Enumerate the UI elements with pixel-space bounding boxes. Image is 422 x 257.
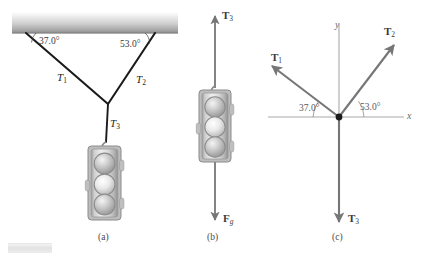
light-visor-left-b <box>196 123 200 134</box>
caption-panel-b: (b) <box>207 233 218 243</box>
panel-b-group <box>196 16 234 220</box>
panel-a-group <box>12 12 178 220</box>
caption-panel-c: (c) <box>332 233 343 243</box>
origin-knot-dot-c <box>336 114 343 121</box>
angle-label-left-c: 37.0° <box>299 104 319 114</box>
bottom-left-partial-bar <box>8 243 52 253</box>
ceiling-bar <box>12 12 178 33</box>
tension-label-t1-a: T1 <box>57 72 67 85</box>
vector-t2-subscript-c: 2 <box>391 30 395 39</box>
tension-t1-subscript: 1 <box>63 76 67 85</box>
vector-t3-subscript-b: 3 <box>229 14 233 23</box>
axis-label-y-c: y <box>335 20 339 30</box>
cable-t3 <box>106 104 108 142</box>
tension-label-t2-a: T2 <box>136 74 146 87</box>
vector-t3-subscript-c: 3 <box>355 217 359 226</box>
tension-label-t3-a: T3 <box>110 118 120 131</box>
vector-label-t2-c: T2 <box>384 26 395 39</box>
light-visor-right2-b <box>230 141 234 152</box>
axis-label-x-c: x <box>407 111 411 121</box>
lamp-yellow-b <box>205 117 225 137</box>
vector-label-fg-b: Fg <box>223 213 233 226</box>
lamp-red-a <box>94 153 115 174</box>
angle-label-left-a: 37.0° <box>39 37 59 47</box>
caption-panel-a: (a) <box>98 233 109 243</box>
light-visor-left-a <box>85 180 89 191</box>
angle-label-right-a: 53.0° <box>120 40 140 50</box>
lamp-red-b <box>205 97 225 117</box>
lamp-yellow-a <box>94 174 115 195</box>
traffic-light-a <box>85 142 124 220</box>
traffic-light-b <box>196 86 234 162</box>
vector-label-t1-c: T1 <box>271 52 282 65</box>
light-visor-right-a <box>120 160 124 171</box>
panel-c-group <box>268 24 404 222</box>
lamp-green-a <box>94 194 115 215</box>
vector-t1-subscript-c: 1 <box>278 56 282 65</box>
vector-label-t3-c: T3 <box>348 213 359 226</box>
vector-fg-symbol-b: F <box>223 212 230 224</box>
tension-t2-subscript: 2 <box>142 78 146 87</box>
vector-fg-subscript-b: g <box>230 217 234 226</box>
figure-canvas: 37.0° 53.0° T1 T2 T3 (a) T3 Fg (b) y x 3… <box>0 0 422 257</box>
tension-t3-subscript: 3 <box>116 122 120 131</box>
vector-label-t3-b: T3 <box>222 10 233 23</box>
light-visor-right2-a <box>120 198 124 209</box>
angle-label-right-c: 53.0° <box>360 103 380 113</box>
light-visor-right-b <box>230 104 234 115</box>
lamp-green-b <box>205 137 225 157</box>
